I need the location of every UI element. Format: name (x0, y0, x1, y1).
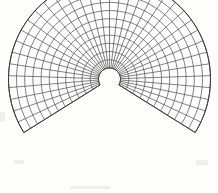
paper-speck (70, 186, 110, 189)
paper-speck (0, 112, 5, 122)
figure-root (0, 0, 218, 193)
paper-speck (196, 160, 208, 165)
annular-sector-mesh (0, 0, 218, 193)
paper-speck (14, 160, 24, 164)
